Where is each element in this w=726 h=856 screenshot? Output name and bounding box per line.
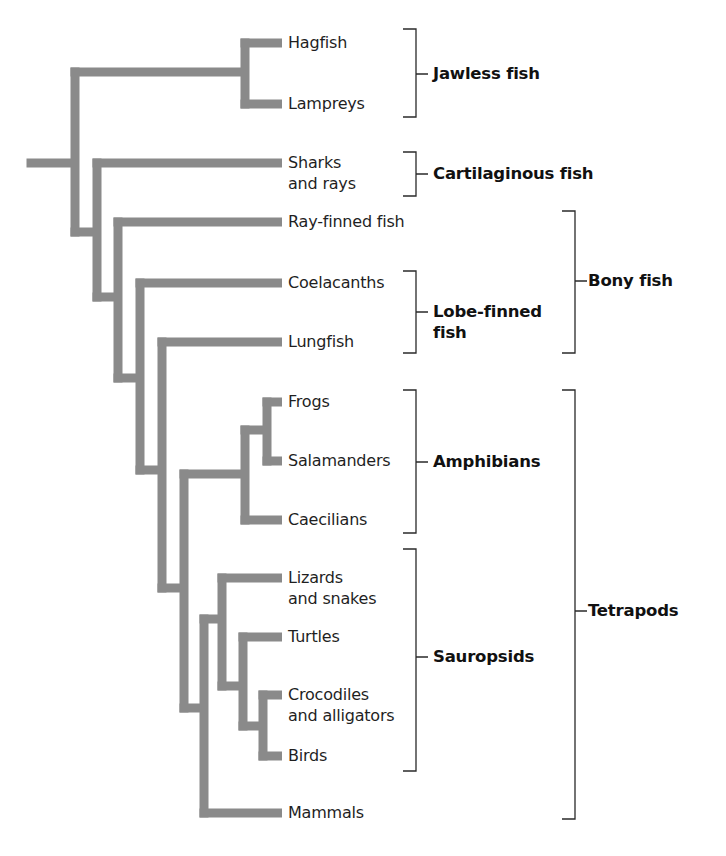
- jawless-fish-bracket: [403, 29, 428, 117]
- branch-segment: [93, 159, 283, 168]
- branch-segment: [114, 218, 283, 227]
- leaf-label-line: Turtles: [288, 626, 340, 647]
- leaf-label-line: Coelacanths: [288, 272, 384, 293]
- tree-branches: [27, 39, 283, 818]
- branch-segment: [200, 809, 283, 818]
- branch-segment: [180, 470, 246, 479]
- group-label-amphibians: Amphibians: [433, 451, 540, 472]
- leaf-label-line: Lungfish: [288, 331, 354, 352]
- branch-segment: [239, 633, 248, 731]
- branch-segment: [200, 615, 209, 818]
- group-label-line: Amphibians: [433, 451, 540, 472]
- leaf-label-frogs: Frogs: [288, 391, 330, 412]
- branch-segment: [241, 100, 283, 109]
- branch-segment: [71, 68, 80, 237]
- leaf-label-turtles: Turtles: [288, 626, 340, 647]
- branch-segment: [259, 752, 283, 761]
- branch-segment: [241, 426, 250, 525]
- leaf-label-line: Frogs: [288, 391, 330, 412]
- leaf-label-coelacanths: Coelacanths: [288, 272, 384, 293]
- leaf-label-line: and alligators: [288, 705, 394, 726]
- leaf-label-crocodiles: Crocodilesand alligators: [288, 684, 394, 726]
- cartilaginous-fish-bracket: [403, 152, 428, 196]
- branch-segment: [114, 218, 123, 383]
- branch-segment: [71, 68, 246, 77]
- branch-segment: [263, 398, 272, 466]
- branch-segment: [136, 279, 145, 475]
- phylogenetic-tree: [0, 0, 726, 856]
- branch-segment: [241, 516, 283, 525]
- leaf-label-line: Birds: [288, 745, 327, 766]
- leaf-label-ray-finned: Ray-finned fish: [288, 211, 405, 232]
- branch-segment: [259, 691, 283, 700]
- leaf-label-lizards: Lizardsand snakes: [288, 567, 376, 609]
- branch-segment: [93, 159, 102, 302]
- group-label-line: Jawless fish: [433, 63, 540, 84]
- leaf-label-line: Lampreys: [288, 93, 365, 114]
- group-label-line: Cartilaginous fish: [433, 163, 593, 184]
- leaf-label-line: Lizards: [288, 567, 376, 588]
- leaf-label-line: Hagfish: [288, 32, 347, 53]
- leaf-label-hagfish: Hagfish: [288, 32, 347, 53]
- group-label-line: Bony fish: [588, 270, 673, 291]
- leaf-label-line: Sharks: [288, 152, 356, 173]
- branch-segment: [239, 633, 283, 642]
- leaf-label-lampreys: Lampreys: [288, 93, 365, 114]
- group-label-line: fish: [433, 322, 542, 343]
- branch-segment: [180, 470, 189, 713]
- branch-segment: [259, 691, 268, 761]
- group-label-line: Lobe-finned: [433, 301, 542, 322]
- leaf-label-mammals: Mammals: [288, 802, 364, 823]
- branch-segment: [27, 159, 76, 168]
- group-label-cartilaginous-fish: Cartilaginous fish: [433, 163, 593, 184]
- leaf-label-salamanders: Salamanders: [288, 450, 390, 471]
- bony-fish-bracket: [562, 211, 587, 353]
- branch-segment: [218, 574, 227, 691]
- sauropsids-bracket: [403, 549, 428, 771]
- branch-segment: [241, 39, 283, 48]
- branch-segment: [158, 338, 283, 347]
- leaf-label-lungfish: Lungfish: [288, 331, 354, 352]
- leaf-label-caecilians: Caecilians: [288, 509, 367, 530]
- branch-segment: [136, 279, 283, 288]
- branch-segment: [241, 39, 250, 109]
- group-label-lobe-finned-fish: Lobe-finnedfish: [433, 301, 542, 343]
- lobe-finned-fish-bracket: [403, 271, 428, 353]
- group-label-tetrapods: Tetrapods: [588, 600, 678, 621]
- branch-segment: [218, 574, 283, 583]
- leaf-label-birds: Birds: [288, 745, 327, 766]
- leaf-label-line: and snakes: [288, 588, 376, 609]
- branch-segment: [158, 338, 167, 593]
- leaf-label-line: Caecilians: [288, 509, 367, 530]
- branch-segment: [263, 457, 283, 466]
- amphibians-bracket: [403, 390, 428, 533]
- group-brackets: [403, 29, 587, 819]
- leaf-label-line: Salamanders: [288, 450, 390, 471]
- group-label-line: Sauropsids: [433, 646, 534, 667]
- tetrapods-bracket: [562, 390, 587, 819]
- leaf-label-sharks: Sharksand rays: [288, 152, 356, 194]
- leaf-label-line: and rays: [288, 173, 356, 194]
- leaf-label-line: Mammals: [288, 802, 364, 823]
- group-label-jawless-fish: Jawless fish: [433, 63, 540, 84]
- group-label-bony-fish: Bony fish: [588, 270, 673, 291]
- leaf-label-line: Ray-finned fish: [288, 211, 405, 232]
- group-label-line: Tetrapods: [588, 600, 678, 621]
- leaf-label-line: Crocodiles: [288, 684, 394, 705]
- branch-segment: [263, 398, 283, 407]
- group-label-sauropsids: Sauropsids: [433, 646, 534, 667]
